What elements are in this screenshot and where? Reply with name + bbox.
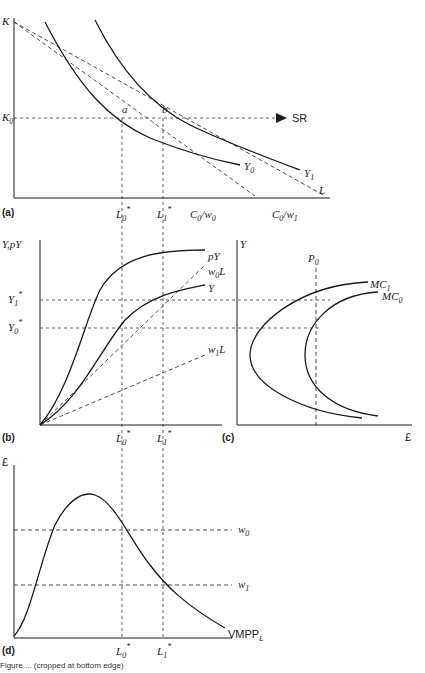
panel-d-letter: (d) bbox=[2, 645, 15, 656]
panel-d: £ w0 w1 VMPPL L0* L1* (d) bbox=[2, 456, 264, 660]
panel-b-l1-label: L1* bbox=[156, 429, 171, 447]
economics-figure: K L K0 SR Y0 Y1 a b L0* L1* C0/w0 C0/w1 … bbox=[0, 0, 425, 673]
panel-a-y1-label: Y1 bbox=[304, 167, 314, 182]
arrow-right-icon bbox=[276, 113, 287, 123]
panel-c-p0-label: P0 bbox=[307, 252, 319, 267]
panel-a: K L K0 SR Y0 Y1 a b L0* L1* C0/w0 C0/w1 … bbox=[1, 15, 330, 223]
panel-c-letter: (c) bbox=[222, 432, 234, 443]
panel-b-w1l-label: w1L bbox=[208, 343, 225, 358]
panel-c-mc1-curve bbox=[250, 282, 368, 418]
panel-b-w0l-line bbox=[40, 265, 205, 425]
panel-b-letter: (b) bbox=[2, 432, 15, 443]
panel-d-vmpp-label: VMPPL bbox=[228, 628, 264, 643]
figure-caption: Figure ... (cropped at bottom edge) bbox=[0, 661, 124, 670]
panel-a-y0-label: Y0 bbox=[244, 160, 254, 175]
panel-a-sr-label: SR bbox=[292, 112, 307, 124]
panel-b-l0-label: L0* bbox=[115, 429, 130, 447]
panel-d-w1-label: w1 bbox=[238, 578, 249, 593]
panel-b-y-axis-label: Y,pY bbox=[2, 238, 23, 250]
panel-a-c0w0-label: C0/w0 bbox=[190, 208, 216, 223]
panel-a-k0-label: K0 bbox=[1, 111, 13, 126]
panel-a-point-b: b bbox=[162, 103, 168, 115]
panel-d-l0-label: L0* bbox=[115, 642, 130, 660]
panel-a-y-axis-label: K bbox=[1, 15, 10, 27]
panel-d-vmpp-curve bbox=[14, 494, 225, 636]
panel-b-y0star-label: Y0* bbox=[8, 318, 22, 336]
panel-d-l1-label: L1* bbox=[156, 642, 171, 660]
panel-a-isoquant-y1 bbox=[95, 20, 300, 170]
panel-b-y1star-label: Y1* bbox=[8, 290, 22, 308]
panel-b-y-curve bbox=[40, 285, 205, 425]
panel-a-isocost-w0 bbox=[14, 22, 255, 196]
panel-c-mc0-label: MC0 bbox=[381, 290, 403, 305]
panel-b: Y,pY Y1* Y0* pY w0L Y w1L L0* L1* (b) bbox=[2, 238, 330, 447]
panel-a-l0-label: L0* bbox=[115, 205, 130, 223]
panel-a-c0w1-label: C0/w1 bbox=[272, 208, 298, 223]
panel-c: Y £ P0 MC1 MC0 (c) bbox=[222, 238, 412, 443]
panel-b-w0l-label: w0L bbox=[208, 265, 225, 280]
panel-b-y-label: Y bbox=[208, 282, 216, 294]
panel-a-l1-label: L1* bbox=[156, 205, 171, 223]
panel-c-x-axis-label: £ bbox=[405, 431, 411, 443]
panel-b-py-curve bbox=[40, 250, 205, 425]
panel-a-isocost-w1 bbox=[14, 22, 325, 196]
panel-a-letter: (a) bbox=[2, 207, 14, 218]
panel-b-w1l-line bbox=[40, 355, 205, 425]
panel-a-point-a: a bbox=[122, 103, 128, 115]
panel-b-py-label: pY bbox=[207, 250, 222, 262]
panel-d-y-axis-label: £ bbox=[2, 456, 8, 468]
panel-c-y-axis-label: Y bbox=[240, 238, 248, 250]
panel-d-w0-label: w0 bbox=[238, 523, 249, 538]
